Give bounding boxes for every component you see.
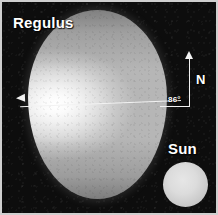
angle-vertex-baseline [160, 106, 190, 107]
inclination-angle-label: 86° [168, 95, 181, 104]
north-label: N [196, 72, 206, 87]
rotation-axis-arrowhead-icon [16, 94, 25, 102]
sun-label: Sun [168, 140, 197, 157]
north-arrowhead-icon [185, 51, 193, 59]
regulus-star-figure: Regulus Sun N 86° [0, 0, 218, 215]
sun-comparison-disk [163, 162, 208, 207]
regulus-label: Regulus [13, 14, 74, 31]
north-reference-line [189, 58, 190, 106]
